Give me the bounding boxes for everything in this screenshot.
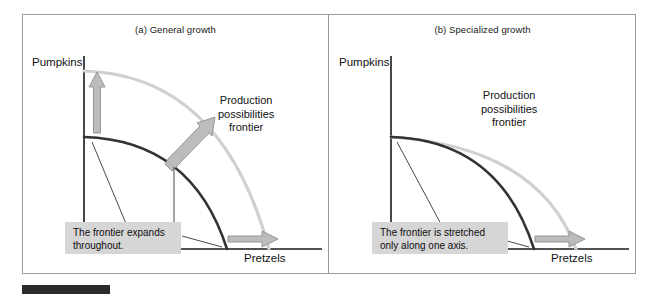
panel-a-arrow-vertical: [89, 72, 105, 133]
panel-b-ppf-label-line1: Production: [483, 89, 536, 101]
panel-a-callout: The frontier expands throughout.: [65, 222, 181, 254]
panel-a-ppf-label-line2: possibilities: [218, 108, 274, 120]
panel-a-leader-line-top: [92, 142, 127, 226]
panel-b-ppf-label-line3: frontier: [492, 116, 526, 128]
panel-b-arrow-horizontal: [535, 231, 585, 247]
panel-general-growth: (a) General growth Pumpkins Pretzels: [22, 14, 329, 274]
panel-a-callout-line1: The frontier expands: [73, 227, 165, 238]
panel-b-leader-line-top: [397, 142, 442, 226]
bottom-accent-bar: [22, 285, 110, 294]
panel-b-callout-line1: The frontier is stretched: [380, 227, 485, 238]
panel-a-arrow-horizontal: [228, 231, 278, 247]
panel-b-ppf-label-line2: possibilities: [481, 103, 537, 115]
figure-container: (a) General growth Pumpkins Pretzels: [0, 0, 656, 300]
panel-b-ppf-label: Production possibilities frontier: [481, 89, 537, 130]
panel-a-callout-line2: throughout.: [73, 240, 124, 251]
panel-b-callout-line2: only along one axis.: [380, 240, 468, 251]
panel-a-ppf-label: Production possibilities frontier: [218, 94, 274, 135]
panel-a-leader-line-bottom: [182, 236, 222, 247]
panel-a-ppf-label-line3: frontier: [229, 121, 263, 133]
panel-a-arrow-diagonal: [165, 117, 215, 171]
panel-a-ppf-label-line1: Production: [220, 94, 273, 106]
panel-specialized-growth: (b) Specialized growth Pumpkins Pretzels…: [329, 14, 636, 274]
panel-b-callout: The frontier is stretched only along one…: [372, 222, 508, 254]
